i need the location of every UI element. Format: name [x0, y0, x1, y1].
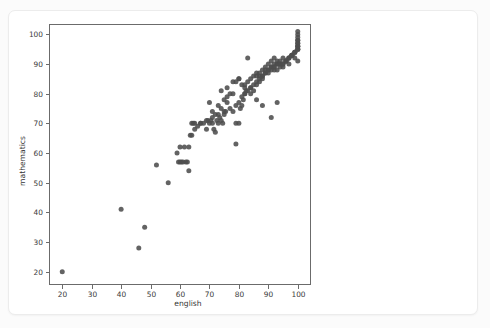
- data-point: [186, 145, 191, 150]
- data-point: [236, 121, 241, 126]
- data-point: [295, 38, 300, 43]
- chart-card: 20304050607080901002030405060708090100 e…: [8, 10, 478, 315]
- data-point: [230, 91, 235, 96]
- data-point: [186, 168, 191, 173]
- data-point: [207, 100, 212, 105]
- data-point: [189, 133, 194, 138]
- x-tick-label: 90: [264, 290, 274, 299]
- y-tick-label: 90: [34, 60, 44, 69]
- y-tick-label: 50: [34, 179, 44, 188]
- data-point: [230, 79, 235, 84]
- data-point: [254, 97, 259, 102]
- data-point: [245, 56, 250, 61]
- data-point: [166, 180, 171, 185]
- data-point: [185, 159, 190, 164]
- data-point: [60, 269, 65, 274]
- y-tick-label: 30: [34, 238, 44, 247]
- data-point: [220, 121, 225, 126]
- data-point: [236, 100, 241, 105]
- data-point: [175, 151, 180, 156]
- data-point: [219, 88, 224, 93]
- data-point: [204, 118, 209, 123]
- data-point: [119, 207, 124, 212]
- x-tick-label: 30: [88, 290, 98, 299]
- data-point: [269, 115, 274, 120]
- screenshot-root: 20304050607080901002030405060708090100 e…: [0, 0, 490, 328]
- data-point: [136, 245, 141, 250]
- x-tick-label: 40: [117, 290, 127, 299]
- x-tick-label: 80: [235, 290, 245, 299]
- x-tick-label: 70: [205, 290, 215, 299]
- data-point: [154, 162, 159, 167]
- data-point: [248, 85, 253, 90]
- data-point: [213, 130, 218, 135]
- x-tick-label: 50: [147, 290, 157, 299]
- data-point: [216, 112, 221, 117]
- x-tick-label: 100: [291, 290, 305, 299]
- y-tick-label: 60: [34, 149, 44, 158]
- y-tick-label: 80: [34, 90, 44, 99]
- x-axis-title: english: [174, 299, 201, 308]
- data-point: [295, 29, 300, 34]
- data-point: [198, 121, 203, 126]
- data-point: [142, 225, 147, 230]
- scatter-plot-svg: 20304050607080901002030405060708090100 e…: [9, 11, 339, 316]
- data-point: [222, 109, 227, 114]
- y-tick-label: 20: [34, 268, 44, 277]
- x-tick-label: 60: [176, 290, 186, 299]
- y-tick-label: 70: [34, 119, 44, 128]
- data-point: [210, 121, 215, 126]
- y-axis-title: mathematics: [18, 136, 27, 186]
- data-point: [260, 103, 265, 108]
- x-tick-label: 20: [58, 290, 68, 299]
- data-point: [210, 115, 215, 120]
- data-point: [182, 145, 187, 150]
- data-point: [295, 44, 300, 49]
- data-point: [236, 76, 241, 81]
- data-point: [178, 145, 183, 150]
- data-point: [228, 106, 233, 111]
- data-point: [295, 59, 300, 64]
- data-point: [225, 85, 230, 90]
- scatter-plot-figure: 20304050607080901002030405060708090100 e…: [9, 11, 339, 316]
- y-tick-label: 100: [29, 30, 43, 39]
- y-tick-label: 40: [34, 208, 44, 217]
- data-point: [192, 121, 197, 126]
- data-point: [242, 82, 247, 87]
- data-point: [204, 127, 209, 132]
- data-point: [233, 142, 238, 147]
- data-point: [275, 100, 280, 105]
